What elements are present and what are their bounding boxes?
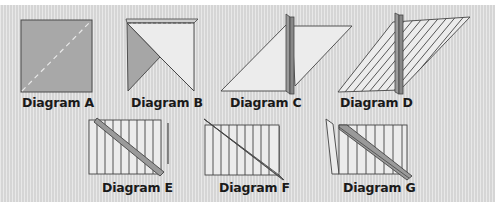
diagram-d-striped-parallelogram	[338, 13, 470, 94]
diagram-a-square	[21, 20, 92, 92]
diagram-e-striped-rect-band	[89, 118, 168, 176]
label-diagram-f: Diagram F	[219, 180, 290, 195]
label-diagram-c: Diagram C	[230, 95, 301, 110]
label-diagram-b: Diagram B	[131, 95, 203, 110]
diagram-f-striped-rect-diagonal	[204, 119, 284, 180]
label-diagram-g: Diagram G	[343, 180, 415, 195]
label-diagram-e: Diagram E	[102, 180, 173, 195]
diagram-b-folded-triangle	[126, 19, 198, 91]
diagram-g-trimmed-band	[326, 119, 412, 180]
label-diagram-a: Diagram A	[22, 95, 94, 110]
label-diagram-d: Diagram D	[340, 95, 413, 110]
diagram-c-triangles-with-strip	[221, 14, 352, 94]
